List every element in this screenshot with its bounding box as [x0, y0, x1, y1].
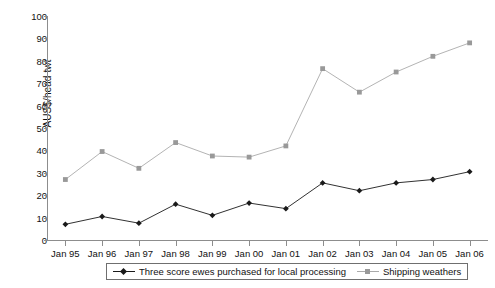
y-axis-tick-label: 100 [7, 11, 47, 22]
data-point-marker [173, 201, 179, 207]
data-point-marker [467, 40, 472, 45]
series-line [65, 172, 469, 225]
x-axis-tick-mark [396, 241, 397, 246]
data-point-marker [430, 177, 436, 183]
data-point-marker [283, 206, 289, 212]
x-axis-tick-mark [249, 241, 250, 246]
data-point-marker [356, 188, 362, 194]
chart-figure: AUS$/head twt 0102030405060708090100 Jan… [0, 0, 495, 288]
data-point-marker [320, 180, 326, 186]
series-1 [62, 169, 472, 227]
y-axis-tick-labels: 0102030405060708090100 [7, 16, 47, 240]
x-axis-tick-label: Jan 06 [440, 248, 495, 259]
data-point-marker [136, 220, 142, 226]
data-point-marker [136, 166, 141, 171]
legend-marker-series-1-icon [113, 267, 135, 276]
plot-area [47, 16, 488, 240]
data-point-marker [210, 154, 215, 159]
series-line [65, 43, 469, 180]
x-axis-tick-mark [176, 241, 177, 246]
x-axis-tick-mark [359, 241, 360, 246]
data-point-marker [357, 90, 362, 95]
legend-marker-series-2-icon [357, 267, 379, 276]
x-axis-tick-mark [139, 241, 140, 246]
y-axis-tick-label: 40 [7, 145, 47, 156]
data-point-marker [63, 177, 68, 182]
data-point-marker [100, 149, 105, 154]
x-axis-tick-mark [102, 241, 103, 246]
data-point-marker [247, 155, 252, 160]
legend-item-series-1: Three score ewes purchased for local pro… [113, 266, 346, 277]
legend-label-series-2: Shipping weathers [383, 266, 461, 277]
chart-legend: Three score ewes purchased for local pro… [106, 263, 468, 280]
series-2 [63, 40, 472, 181]
x-axis-tick-mark [286, 241, 287, 246]
x-axis-tick-mark [65, 241, 66, 246]
y-axis-tick-label: 70 [7, 78, 47, 89]
y-axis-tick-label: 10 [7, 212, 47, 223]
data-point-marker [99, 214, 105, 220]
series-layer [47, 16, 488, 240]
x-axis-tick-mark [433, 241, 434, 246]
legend-item-series-2: Shipping weathers [357, 266, 461, 277]
data-point-marker [209, 212, 215, 218]
x-axis-ticks: Jan 95Jan 96Jan 97Jan 98Jan 99Jan 00Jan … [47, 241, 488, 263]
y-axis-tick-label: 80 [7, 55, 47, 66]
data-point-marker [467, 169, 473, 175]
data-point-marker [394, 70, 399, 75]
y-axis-tick-label: 30 [7, 167, 47, 178]
data-point-marker [62, 221, 68, 227]
y-axis-tick-label: 20 [7, 190, 47, 201]
x-axis-tick-mark [212, 241, 213, 246]
data-point-marker [173, 140, 178, 145]
data-point-marker [393, 180, 399, 186]
data-point-marker [246, 200, 252, 206]
x-axis-tick-mark [323, 241, 324, 246]
legend-label-series-1: Three score ewes purchased for local pro… [139, 266, 346, 277]
data-point-marker [320, 66, 325, 71]
x-axis-tick-mark [470, 241, 471, 246]
y-axis-tick-label: 90 [7, 33, 47, 44]
y-axis-tick-label: 60 [7, 100, 47, 111]
y-axis-tick-label: 0 [7, 235, 47, 246]
y-axis-tick-label: 50 [7, 123, 47, 134]
data-point-marker [430, 54, 435, 59]
data-point-marker [283, 144, 288, 149]
